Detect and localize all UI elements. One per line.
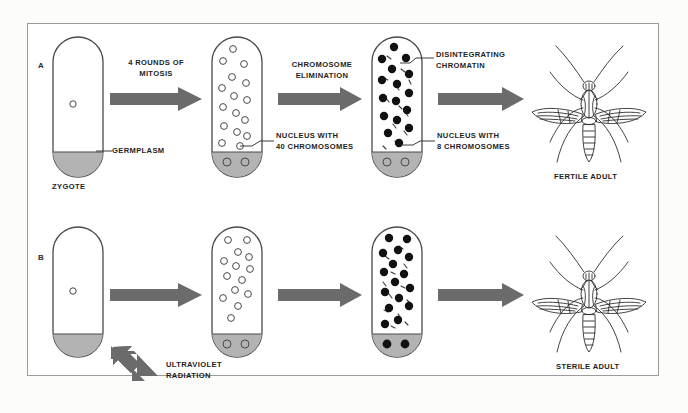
callout-nucleus-40: NUCLEUS WITH 40 CHROMOSOMES	[276, 131, 353, 152]
leader-nucleus-40	[240, 136, 274, 152]
cell-b-post-elimination	[371, 226, 423, 358]
caption-sterile-adult: STERILE ADULT	[556, 362, 620, 373]
leader-disintegrating-chromatin	[400, 52, 434, 66]
panel-letter-a: A	[38, 61, 44, 70]
cell-b-post-mitosis	[211, 226, 263, 358]
arrow-b-elimination	[278, 283, 362, 307]
callout-nucleus-8: NUCLEUS WITH 8 CHROMOSOMES	[437, 131, 510, 152]
callout-ultraviolet-radiation: ULTRAVIOLET RADIATION	[166, 360, 222, 381]
arrow-b-mitosis	[110, 283, 202, 307]
label-chromosome-elimination: CHROMOSOME ELIMINATION	[276, 60, 368, 81]
caption-zygote: ZYGOTE	[52, 182, 85, 193]
arrow-mitosis	[110, 87, 202, 111]
arrow-to-sterile-adult	[438, 283, 524, 307]
cell-a-post-mitosis	[211, 36, 263, 178]
figure-canvas: A GERMPLASM ZYGOTE 4 ROUNDS OF MITOSIS	[0, 0, 688, 413]
caption-fertile-adult: FERTILE ADULT	[554, 172, 617, 183]
panel-letter-b: B	[38, 253, 44, 262]
callout-germplasm: GERMPLASM	[112, 146, 165, 157]
cell-a-zygote	[52, 36, 104, 178]
arrow-to-fertile-adult	[438, 87, 524, 111]
leader-nucleus-8	[401, 136, 435, 152]
leader-germplasm	[96, 148, 116, 154]
arrow-ultraviolet-radiation	[110, 344, 160, 394]
mosquito-fertile	[528, 38, 650, 168]
label-mitosis: 4 ROUNDS OF MITOSIS	[104, 58, 208, 79]
mosquito-sterile	[528, 228, 650, 358]
arrow-chromosome-elimination	[278, 87, 362, 111]
cell-b-zygote	[52, 226, 104, 358]
callout-disintegrating-chromatin: DISINTEGRATING CHROMATIN	[436, 50, 505, 71]
